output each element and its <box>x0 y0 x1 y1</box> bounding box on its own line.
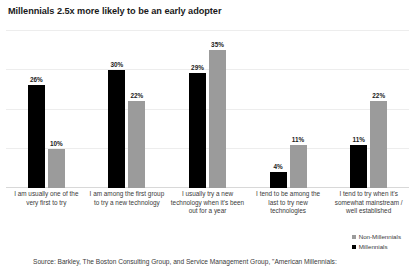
bar-mil[interactable]: 4% <box>270 30 287 188</box>
bar-rect[interactable] <box>128 101 145 188</box>
bar-value-label: 22% <box>130 92 143 100</box>
bar-group: 11%22% <box>328 30 409 188</box>
bar-rect[interactable] <box>370 101 387 188</box>
category-label: I tend to be among the last to try new t… <box>248 190 329 216</box>
bar-group: 4%11% <box>248 30 329 188</box>
bar-mil[interactable]: 30% <box>108 30 125 188</box>
bar-nonmil[interactable]: 22% <box>128 30 145 188</box>
bar-mil[interactable]: 11% <box>350 30 367 188</box>
bar-value-label: 35% <box>211 41 224 49</box>
bar-group: 29%35% <box>167 30 248 188</box>
legend-item[interactable]: Millennials <box>352 242 401 251</box>
bar-rect[interactable] <box>189 73 206 188</box>
bar-value-label: 22% <box>372 92 385 100</box>
bar-nonmil[interactable]: 11% <box>290 30 307 188</box>
bar-rect[interactable] <box>209 50 226 188</box>
bar-groups: 26%10%30%22%29%35%4%11%11%22% <box>6 30 409 188</box>
bar-rect[interactable] <box>48 149 65 189</box>
category-label: I am usually one of the very first to tr… <box>6 190 87 216</box>
bar-group: 30%22% <box>87 30 168 188</box>
bar-value-label: 11% <box>352 136 364 144</box>
plot-area: 26%10%30%22%29%35%4%11%11%22% <box>0 30 413 188</box>
legend-label: Non-Millennials <box>359 232 401 241</box>
bar-rect[interactable] <box>290 145 307 188</box>
bar-value-label: 4% <box>273 163 282 171</box>
legend-swatch-icon <box>352 235 356 239</box>
bar-group: 26%10% <box>6 30 87 188</box>
bar-rect[interactable] <box>108 70 125 189</box>
bar-value-label: 29% <box>191 64 204 72</box>
bar-rect[interactable] <box>270 172 287 188</box>
bar-nonmil[interactable]: 35% <box>209 30 226 188</box>
bar-value-label: 11% <box>292 136 304 144</box>
bar-value-label: 26% <box>30 76 43 84</box>
chart-legend: Non-MillennialsMillennials <box>352 232 401 252</box>
category-label: I usually try a new technology when it's… <box>167 190 248 216</box>
bar-mil[interactable]: 26% <box>28 30 45 188</box>
bar-nonmil[interactable]: 22% <box>370 30 387 188</box>
bar-mil[interactable]: 29% <box>189 30 206 188</box>
legend-item[interactable]: Non-Millennials <box>352 232 401 241</box>
bar-value-label: 30% <box>110 61 123 69</box>
category-label: I tend to try when it's somewhat mainstr… <box>328 190 409 216</box>
bar-nonmil[interactable]: 10% <box>48 30 65 188</box>
legend-label: Millennials <box>359 242 388 251</box>
bar-rect[interactable] <box>28 85 45 188</box>
source-note: Source: Barkley, The Boston Consulting G… <box>33 258 337 265</box>
legend-swatch-icon <box>352 245 356 249</box>
bar-value-label: 10% <box>50 140 63 148</box>
chart-title: Millennials 2.5x more likely to be an ea… <box>8 6 221 16</box>
bar-rect[interactable] <box>350 145 367 188</box>
category-labels: I am usually one of the very first to tr… <box>6 190 409 216</box>
category-label: I am among the first group to try a new … <box>87 190 168 216</box>
